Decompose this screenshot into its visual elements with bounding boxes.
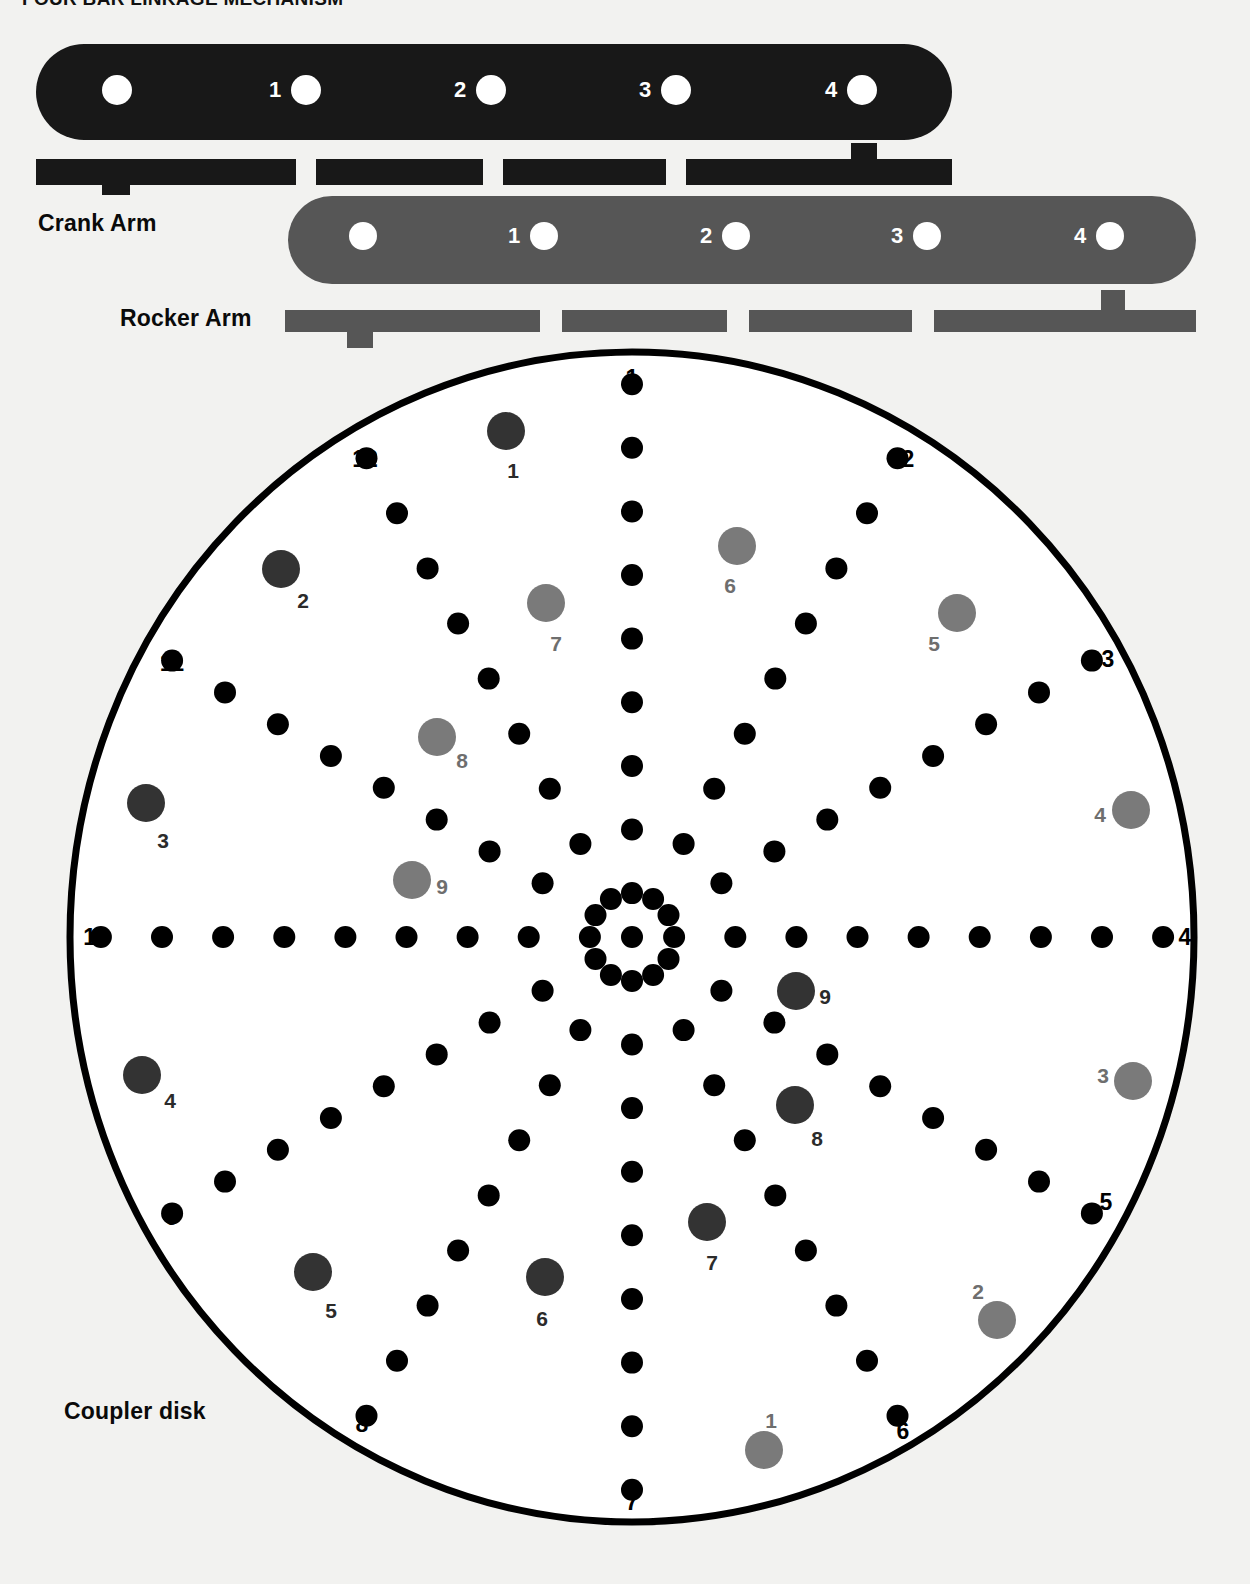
dark-circle-8[interactable]	[776, 1086, 814, 1124]
spoke-dot-s11-p5[interactable]	[373, 777, 395, 799]
spoke-dot-s1-p8[interactable]	[621, 437, 643, 459]
spoke-dot-s2-p5[interactable]	[764, 668, 786, 690]
spoke-dot-s6-p4[interactable]	[734, 1129, 756, 1151]
spoke-dot-s11-p1[interactable]	[585, 904, 607, 926]
spoke-dot-s4-p1[interactable]	[663, 926, 685, 948]
spoke-dot-s1-p3[interactable]	[621, 755, 643, 777]
rocker-hole-3[interactable]	[913, 222, 941, 250]
spoke-dot-s4-p7[interactable]	[1030, 926, 1052, 948]
spoke-dot-s11-p8[interactable]	[214, 681, 236, 703]
dark-circle-9[interactable]	[777, 972, 815, 1010]
spoke-dot-s7-p7[interactable]	[621, 1352, 643, 1374]
gray-circle-9[interactable]	[393, 861, 431, 899]
gray-circle-1[interactable]	[745, 1431, 783, 1469]
crank-hole-2[interactable]	[476, 75, 506, 105]
spoke-dot-s8-p1[interactable]	[600, 964, 622, 986]
dark-circle-4[interactable]	[123, 1056, 161, 1094]
spoke-dot-s3-p7[interactable]	[975, 713, 997, 735]
spoke-dot-s12-p3[interactable]	[539, 778, 561, 800]
spoke-dot-s7-p4[interactable]	[621, 1161, 643, 1183]
crank-hole-4[interactable]	[847, 75, 877, 105]
spoke-dot-s4-p3[interactable]	[785, 926, 807, 948]
gray-circle-6[interactable]	[718, 527, 756, 565]
spoke-dot-s11-p3[interactable]	[479, 840, 501, 862]
spoke-dot-s12-p1[interactable]	[600, 888, 622, 910]
spoke-dot-s9-p5[interactable]	[373, 1075, 395, 1097]
spoke-dot-s4-p8[interactable]	[1091, 926, 1113, 948]
spoke-dot-s3-p3[interactable]	[763, 840, 785, 862]
spoke-dot-s10-p1[interactable]	[579, 926, 601, 948]
spoke-dot-s11-p7[interactable]	[267, 713, 289, 735]
spoke-dot-center[interactable]	[621, 926, 643, 948]
gray-circle-2[interactable]	[978, 1301, 1016, 1339]
spoke-dot-s6-p2[interactable]	[673, 1019, 695, 1041]
spoke-dot-s12-p5[interactable]	[478, 668, 500, 690]
spoke-dot-s6-p3[interactable]	[703, 1074, 725, 1096]
rocker-hole-4[interactable]	[1096, 222, 1124, 250]
spoke-dot-s2-p8[interactable]	[856, 502, 878, 524]
spoke-dot-s1-p7[interactable]	[621, 500, 643, 522]
rocker-hole-2[interactable]	[722, 222, 750, 250]
rocker-hole-1[interactable]	[530, 222, 558, 250]
spoke-dot-s8-p5[interactable]	[478, 1184, 500, 1206]
spoke-dot-s9-p2[interactable]	[532, 980, 554, 1002]
spoke-dot-s2-p2[interactable]	[673, 833, 695, 855]
spoke-dot-s3-p5[interactable]	[869, 777, 891, 799]
spoke-dot-s2-p4[interactable]	[734, 723, 756, 745]
spoke-dot-s3-p9[interactable]	[1081, 650, 1103, 672]
spoke-dot-s8-p3[interactable]	[539, 1074, 561, 1096]
spoke-dot-s10-p2[interactable]	[518, 926, 540, 948]
spoke-dot-s6-p6[interactable]	[795, 1240, 817, 1262]
crank-hole-0[interactable]	[102, 75, 132, 105]
spoke-dot-s12-p8[interactable]	[386, 502, 408, 524]
spoke-dot-s7-p6[interactable]	[621, 1288, 643, 1310]
crank-hole-3[interactable]	[661, 75, 691, 105]
spoke-dot-s10-p4[interactable]	[396, 926, 418, 948]
spoke-dot-s7-p2[interactable]	[621, 1034, 643, 1056]
spoke-dot-s8-p8[interactable]	[386, 1350, 408, 1372]
spoke-dot-s2-p7[interactable]	[825, 557, 847, 579]
spoke-dot-s3-p1[interactable]	[658, 904, 680, 926]
spoke-dot-s8-p4[interactable]	[508, 1129, 530, 1151]
spoke-dot-s2-p3[interactable]	[703, 778, 725, 800]
spoke-dot-s9-p4[interactable]	[426, 1043, 448, 1065]
spoke-dot-s5-p5[interactable]	[869, 1075, 891, 1097]
crank-hole-1[interactable]	[291, 75, 321, 105]
dark-circle-2[interactable]	[262, 550, 300, 588]
spoke-dot-s8-p2[interactable]	[569, 1019, 591, 1041]
spoke-dot-s9-p8[interactable]	[214, 1171, 236, 1193]
spoke-dot-s6-p1[interactable]	[642, 964, 664, 986]
gray-circle-3[interactable]	[1114, 1062, 1152, 1100]
spoke-dot-s1-p1[interactable]	[621, 882, 643, 904]
spoke-dot-s1-p6[interactable]	[621, 564, 643, 586]
spoke-dot-s6-p5[interactable]	[764, 1184, 786, 1206]
spoke-dot-s5-p4[interactable]	[816, 1043, 838, 1065]
spoke-dot-s9-p7[interactable]	[267, 1139, 289, 1161]
spoke-dot-s9-p6[interactable]	[320, 1107, 342, 1129]
spoke-dot-s11-p4[interactable]	[426, 809, 448, 831]
spoke-dot-s4-p4[interactable]	[847, 926, 869, 948]
spoke-dot-s1-p2[interactable]	[621, 819, 643, 841]
spoke-dot-s3-p2[interactable]	[710, 872, 732, 894]
spoke-dot-s9-p3[interactable]	[479, 1012, 501, 1034]
gray-circle-7[interactable]	[527, 584, 565, 622]
spoke-dot-s5-p3[interactable]	[763, 1012, 785, 1034]
spoke-dot-s12-p4[interactable]	[508, 723, 530, 745]
spoke-dot-s7-p8[interactable]	[621, 1415, 643, 1437]
spoke-dot-s7-p3[interactable]	[621, 1097, 643, 1119]
spoke-dot-s10-p8[interactable]	[151, 926, 173, 948]
spoke-dot-s5-p1[interactable]	[658, 948, 680, 970]
spoke-dot-s4-p6[interactable]	[969, 926, 991, 948]
spoke-dot-s3-p4[interactable]	[816, 809, 838, 831]
dark-circle-1[interactable]	[487, 412, 525, 450]
spoke-dot-s12-p6[interactable]	[447, 613, 469, 635]
spoke-dot-s4-p5[interactable]	[908, 926, 930, 948]
rocker-hole-0[interactable]	[349, 222, 377, 250]
spoke-dot-s5-p6[interactable]	[922, 1107, 944, 1129]
spoke-dot-s10-p5[interactable]	[334, 926, 356, 948]
spoke-dot-s6-p7[interactable]	[825, 1295, 847, 1317]
spoke-dot-s8-p6[interactable]	[447, 1240, 469, 1262]
spoke-dot-s5-p8[interactable]	[1028, 1171, 1050, 1193]
spoke-dot-s10-p7[interactable]	[212, 926, 234, 948]
gray-circle-8[interactable]	[418, 718, 456, 756]
